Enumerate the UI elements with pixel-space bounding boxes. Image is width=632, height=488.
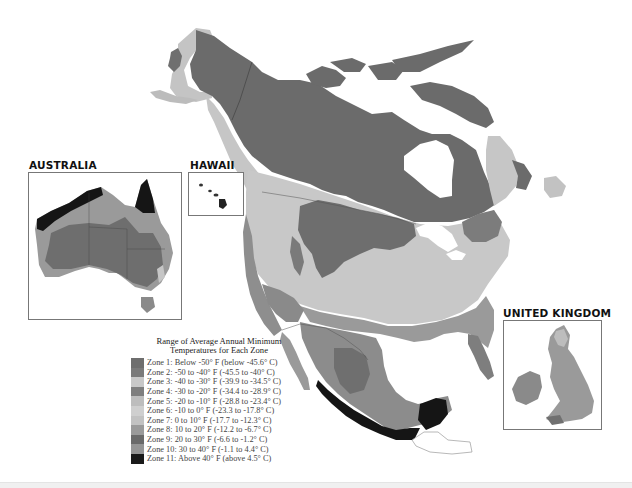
zone-3-label: Zone 3: -40 to -30° F (-39.9 to -34.5° C… [147, 377, 281, 386]
zone-6-label: Zone 6: -10 to 0° F (-23.3 to -17.8° C) [147, 406, 274, 415]
uk-inset-title: UNITED KINGDOM [503, 307, 611, 319]
zone-7-swatch [131, 416, 144, 426]
australia-map [29, 173, 181, 319]
legend-row-zone-8: Zone 8: 10 to 20° F (-12.2 to -6.7° C) [131, 425, 301, 435]
legend-row-zone-5: Zone 5: -20 to -10° F (-28.8 to -23.4° C… [131, 396, 301, 406]
legend-title-line2: Temperatures for Each Zone [137, 346, 301, 355]
zone-4-swatch [131, 387, 144, 397]
legend-row-zone-4: Zone 4: -30 to -20° F (-34.4 to -28.9° C… [131, 387, 301, 397]
baffin-island [410, 82, 494, 128]
uk-inset [503, 320, 602, 430]
zone-6-swatch [131, 406, 144, 416]
legend-row-zone-2: Zone 2: -50 to -40° F (-45.5 to -40° C) [131, 368, 301, 378]
legend-row-zone-9: Zone 9: 20 to 30° F (-6.6 to -1.2° C) [131, 435, 301, 445]
zone-2-label: Zone 2: -50 to -40° F (-45.5 to -40° C) [147, 368, 275, 377]
zone-10-swatch [131, 444, 144, 454]
uk-map [504, 321, 601, 429]
zone-7-label: Zone 7: 0 to 10° F (-17.7 to -12.3° C) [147, 416, 271, 425]
zone-11-label: Zone 11: Above 40° F (above 4.5° C) [147, 454, 271, 463]
kauai-island [199, 184, 203, 187]
zone-1-label: Zone 1: Below -50° F (below -45.6° C) [147, 358, 278, 367]
newfoundland [544, 176, 566, 198]
zone-5-swatch [131, 396, 144, 406]
zone-8-swatch [131, 425, 144, 435]
zone-9-label: Zone 9: 20 to 30° F (-6.6 to -1.2° C) [147, 435, 267, 444]
zone-11-swatch [131, 454, 144, 464]
legend-row-zone-6: Zone 6: -10 to 0° F (-23.3 to -17.8° C) [131, 406, 301, 416]
maui-island [214, 194, 219, 197]
zone-10-label: Zone 10: 30 to 40° F (-1.1 to 4.4° C) [147, 445, 269, 454]
legend-row-zone-10: Zone 10: 30 to 40° F (-1.1 to 4.4° C) [131, 444, 301, 454]
cape-york-zone11 [135, 179, 155, 213]
hawaii-inset-title: HAWAII [190, 159, 235, 171]
australia-inset [28, 172, 182, 320]
zone-8-label: Zone 8: 10 to 20° F (-12.2 to -6.7° C) [147, 425, 271, 434]
central-america-outline [412, 432, 472, 454]
yucatan-zone11 [418, 398, 448, 430]
legend-rows: Zone 1: Below -50° F (below -45.6° C) Zo… [131, 358, 301, 464]
zone-1-swatch [131, 358, 144, 368]
zone-9-swatch [131, 435, 144, 445]
hardiness-zone-legend: Range of Average Annual Minimum Temperat… [131, 337, 301, 464]
bottom-edge-strip [0, 482, 632, 488]
tasmania [141, 297, 155, 313]
zone-3-swatch [131, 377, 144, 387]
legend-row-zone-7: Zone 7: 0 to 10° F (-17.7 to -12.3° C) [131, 416, 301, 426]
zone-4-label: Zone 4: -30 to -20° F (-34.4 to -28.9° C… [147, 387, 281, 396]
legend-row-zone-3: Zone 3: -40 to -30° F (-39.9 to -34.5° C… [131, 377, 301, 387]
zone-5-label: Zone 5: -20 to -10° F (-28.8 to -23.4° C… [147, 397, 281, 406]
great-britain [546, 325, 594, 423]
ellesmere-island [392, 40, 474, 72]
oahu-island [208, 190, 212, 193]
zone-2-swatch [131, 368, 144, 378]
hawaii-map [189, 173, 243, 215]
hawaii-inset [188, 172, 244, 216]
ireland [512, 371, 542, 405]
australia-inset-title: AUSTRALIA [29, 159, 97, 171]
legend-row-zone-1: Zone 1: Below -50° F (below -45.6° C) [131, 358, 301, 368]
legend-row-zone-11: Zone 11: Above 40° F (above 4.5° C) [131, 454, 301, 464]
big-island [219, 199, 227, 209]
